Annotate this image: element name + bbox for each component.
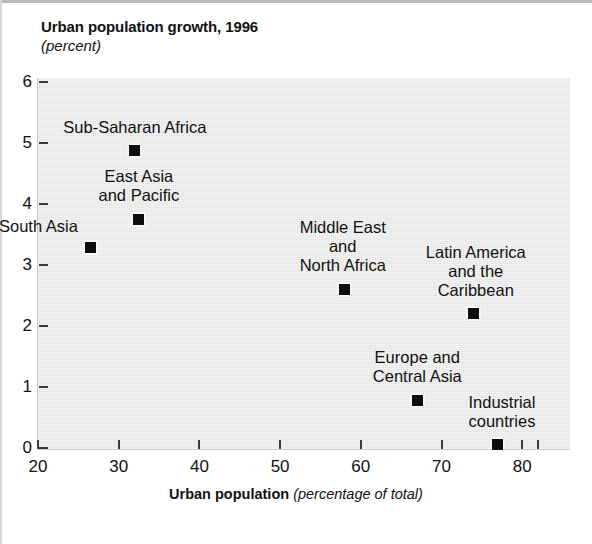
y-axis-tick [39,386,48,388]
y-axis-tick [39,81,48,83]
data-point-marker [468,308,479,319]
data-point-label-line: North Africa [300,256,386,275]
data-point-label: East Asiaand Pacific [98,167,179,205]
y-axis-tick-label: 6 [8,73,32,90]
data-point-label-line: Middle East [300,218,386,237]
x-axis-tick-label: 30 [99,457,139,476]
data-point-label-line: Latin America [426,243,526,262]
data-point-label: Sub-Saharan Africa [63,118,206,137]
data-point-label-line: South Asia [0,217,78,236]
data-point-label-line: Sub-Saharan Africa [63,118,206,137]
x-axis-tick [118,440,120,449]
data-point-label-line: Europe and [373,348,462,367]
x-axis-tick-label: 70 [422,457,462,476]
data-point-marker [339,284,350,295]
data-point-label-line: countries [468,412,535,431]
data-point-label-line: Industrial [468,393,535,412]
chart-figure: Urban population growth, 1996 (percent) … [0,0,592,544]
page-title: Urban population growth, 1996 [41,18,561,36]
x-axis-tick [521,440,523,449]
scan-top-edge [0,0,592,3]
chart-subtitle: (percent) [41,36,561,56]
y-axis-tick-label: 5 [8,134,32,151]
x-axis-title-bold: Urban population [169,486,289,502]
data-point-label: Europe andCentral Asia [373,348,462,386]
x-axis-line [38,449,570,450]
y-axis-tick [39,325,48,327]
x-axis-tick [441,440,443,449]
x-axis-tick [360,440,362,449]
y-axis-tick-label: 0 [8,439,32,456]
x-axis-tick [279,440,281,449]
data-point-label-line: East Asia [98,167,179,186]
x-axis-tick [198,440,200,449]
x-axis-title: Urban population (percentage of total) [0,486,592,502]
y-axis-tick-label: 1 [8,378,32,395]
data-point-label: South Asia [0,217,78,236]
data-point-marker [129,145,140,156]
scan-left-edge [0,0,2,544]
data-point-label-line: and [300,237,386,256]
data-point-marker [492,439,503,450]
data-point-marker [85,242,96,253]
x-axis-tick [537,440,539,449]
data-point-label: Latin Americaand theCaribbean [426,243,526,300]
data-point-marker [412,395,423,406]
data-point-label: Industrialcountries [468,393,535,431]
chart-title-block: Urban population growth, 1996 (percent) [41,18,561,56]
data-point-label-line: Central Asia [373,367,462,386]
y-axis-tick [39,142,48,144]
y-axis-tick [39,447,48,449]
data-point-marker [133,214,144,225]
y-axis-line [37,78,38,449]
x-axis-title-italic: (percentage of total) [293,486,423,502]
y-axis-tick-label: 3 [8,256,32,273]
x-axis-tick [37,440,39,449]
x-axis-tick-label: 40 [179,457,219,476]
data-point-label: Middle EastandNorth Africa [300,218,386,275]
x-axis-tick-label: 80 [502,457,542,476]
y-axis-tick-label: 4 [8,195,32,212]
y-axis-tick-label: 2 [8,317,32,334]
y-axis-tick [39,264,48,266]
data-point-label-line: and Pacific [98,186,179,205]
y-axis-tick [39,203,48,205]
x-axis-tick-label: 50 [260,457,300,476]
data-point-label-line: Caribbean [426,281,526,300]
x-axis-tick-label: 60 [341,457,381,476]
x-axis-tick-label: 20 [18,457,58,476]
data-point-label-line: and the [426,262,526,281]
